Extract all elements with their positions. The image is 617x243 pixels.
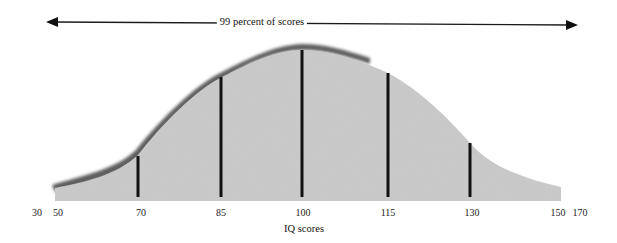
tick-label-100: 100 xyxy=(296,207,311,218)
curve-grain xyxy=(55,50,561,201)
arrow-line xyxy=(54,22,570,25)
tick-label-170: 170 xyxy=(573,207,588,218)
range-arrow xyxy=(46,17,578,30)
range-annotation: 99 percent of scores xyxy=(217,16,307,27)
arrow-head-right-icon xyxy=(566,20,578,30)
tick-label-130: 130 xyxy=(465,207,480,218)
tick-label-150: 150 xyxy=(551,207,566,218)
arrow-head-left-icon xyxy=(46,17,58,27)
x-axis-label: IQ scores xyxy=(284,223,324,234)
tick-label-70: 70 xyxy=(136,207,146,218)
tick-label-50: 50 xyxy=(53,207,63,218)
tick-label-85: 85 xyxy=(216,207,226,218)
tick-label-115: 115 xyxy=(381,207,396,218)
tick-label-30: 30 xyxy=(32,207,42,218)
